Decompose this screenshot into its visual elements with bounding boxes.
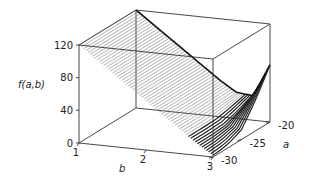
x-tick: [144, 150, 146, 153]
surface-mesh-line: [99, 27, 156, 62]
surface-mesh-line: [159, 77, 216, 112]
box-edge: [136, 108, 270, 122]
surface-mesh-line: [182, 93, 239, 131]
y-axis-label: a: [283, 139, 289, 150]
surface-mesh-line: [133, 55, 190, 90]
z-tick-label: 40: [60, 105, 73, 116]
surface-mesh-line: [146, 66, 203, 101]
surface-mesh-line: [128, 51, 185, 86]
surface-mesh-line: [83, 14, 140, 49]
surface-mesh-line: [144, 64, 201, 99]
surface-mesh-line: [150, 70, 207, 105]
box-edge: [136, 10, 270, 24]
surface-mesh-line: [106, 32, 163, 67]
surface-mesh-line: [119, 44, 176, 79]
surface-mesh-line: [101, 29, 158, 64]
surface-mesh-line: [97, 25, 154, 60]
z-tick-label: 120: [54, 40, 73, 51]
surface-mesh-line: [137, 59, 194, 94]
surface-mesh: [79, 10, 270, 155]
surface-mesh-line: [155, 73, 212, 108]
surface-mesh-line: [86, 16, 143, 51]
surface-mesh-line: [135, 57, 192, 92]
surface-mesh-line: [115, 40, 172, 75]
surface-mesh-line: [162, 79, 219, 114]
x-tick-label: 3: [207, 161, 213, 172]
box-edge: [213, 24, 270, 59]
surface-mesh-line: [126, 49, 183, 84]
x-axis-label: b: [119, 163, 125, 174]
surface-mesh-line: [130, 53, 187, 88]
box-edge: [79, 108, 136, 143]
x-tick-label: 2: [140, 154, 146, 165]
y-tick-label: -30: [221, 155, 237, 166]
x-tick-label: 1: [73, 147, 79, 158]
box-edge: [79, 10, 136, 45]
z-axis-label: f(a,b): [18, 79, 45, 90]
axis-ticks: 04080120123-20-25-30: [54, 40, 294, 173]
z-tick-label: 80: [60, 72, 73, 83]
surface-mesh-line: [166, 82, 223, 117]
surface-mesh-line: [95, 23, 152, 58]
surface-mesh-line: [81, 12, 138, 47]
surface-mesh-line: [113, 38, 170, 73]
y-tick-label: -20: [278, 120, 294, 131]
plot-box-back-edges: [79, 10, 270, 143]
surface-mesh-line: [164, 81, 221, 116]
surface-plot: 04080120123-20-25-30 f(a,b) b a: [0, 0, 316, 184]
surface-mesh-line: [92, 21, 149, 56]
surface-mesh-line: [139, 60, 196, 95]
surface-mesh-line: [157, 75, 214, 110]
surface-mesh-line: [148, 68, 205, 103]
surface-mesh-line: [142, 62, 199, 97]
surface-mesh-line: [117, 42, 174, 77]
y-tick-label: -25: [250, 138, 266, 149]
surface-mesh-line: [108, 34, 165, 69]
surface-mesh-line: [153, 72, 210, 107]
